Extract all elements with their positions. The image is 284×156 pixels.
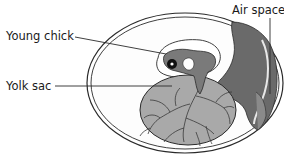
young-chick-label: Young chick xyxy=(6,29,74,43)
yolk-sac-shape xyxy=(140,75,236,145)
egg-illustration xyxy=(0,0,284,156)
air-space-label: Air space xyxy=(232,3,284,17)
yolk-sac-label: Yolk sac xyxy=(6,79,51,93)
